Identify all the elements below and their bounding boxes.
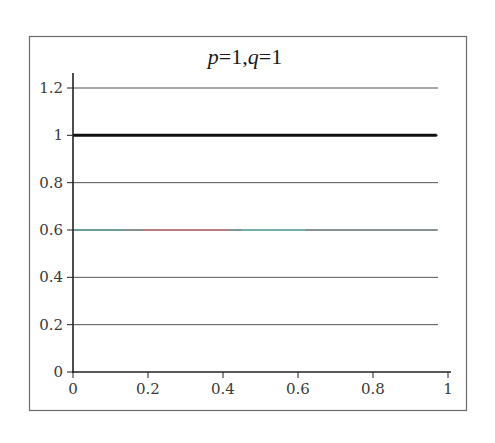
title-eq1: =1, <box>219 44 248 69</box>
x-tick-label: 1 <box>443 380 453 398</box>
x-tick-label: 0.8 <box>361 380 385 398</box>
y-tick-label: 0 <box>53 363 63 381</box>
y-tick-label: 0.6 <box>39 221 63 239</box>
title-eq2: =1 <box>259 44 282 69</box>
y-tick-label: 0.4 <box>39 268 63 286</box>
y-tick-label: 1.2 <box>39 79 63 97</box>
chart: p=1,q=1 00.20.40.60.811.2 00.20.40.60.81 <box>0 0 495 443</box>
x-tick-label: 0.2 <box>136 380 160 398</box>
y-tick-label: 0.8 <box>39 174 63 192</box>
y-tick-label: 1 <box>53 126 63 144</box>
x-tick-label: 0.4 <box>211 380 235 398</box>
title-p: p <box>206 44 219 69</box>
x-tick-label: 0.6 <box>286 380 310 398</box>
chart-title: p=1,q=1 <box>206 44 282 69</box>
chart-frame <box>30 37 467 411</box>
x-tick-label: 0 <box>68 380 78 398</box>
title-q: q <box>248 44 259 69</box>
y-tick-label: 0.2 <box>39 316 63 334</box>
